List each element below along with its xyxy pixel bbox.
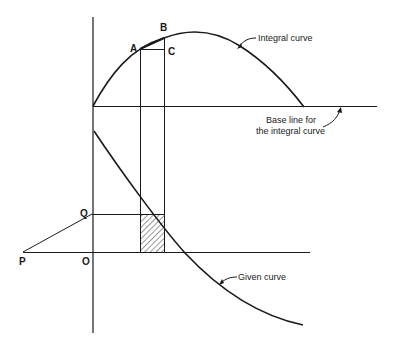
given-curve <box>94 131 303 325</box>
diagram-canvas: A B C Q P O Integral curve Base line for… <box>0 0 395 347</box>
integral-curve <box>93 32 304 107</box>
label-P: P <box>19 256 26 267</box>
base-line-arrowhead-icon <box>337 107 342 113</box>
integral-curve-label: Integral curve <box>258 33 313 43</box>
given-curve-label: Given curve <box>238 272 286 282</box>
label-A: A <box>130 43 137 54</box>
line-PQ <box>23 214 92 252</box>
label-Q: Q <box>80 208 88 219</box>
label-B: B <box>160 22 167 33</box>
hatched-strip-area <box>141 215 165 253</box>
graphical-integration-diagram: A B C Q P O Integral curve Base line for… <box>0 0 395 347</box>
label-O: O <box>82 256 90 267</box>
label-C: C <box>168 46 175 57</box>
chord-AB <box>140 38 164 49</box>
base-line-label-line1: Base line for <box>266 115 316 125</box>
base-line-label-line2: the integral curve <box>256 126 325 136</box>
given-curve-arrowhead-icon <box>219 279 224 285</box>
